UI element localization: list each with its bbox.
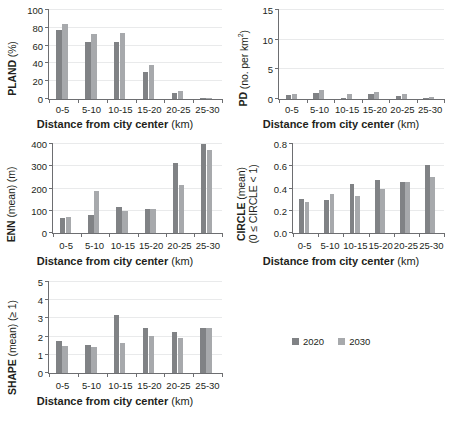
bar-2030-10-15[interactable]: [347, 94, 352, 99]
y-axis-tick-label: 1: [38, 349, 43, 360]
bar-2030-0-5[interactable]: [292, 94, 297, 99]
bar-group: [138, 144, 166, 233]
bar-2020-5-10[interactable]: [88, 215, 93, 233]
y-axis-tick-label: 200: [31, 183, 47, 194]
legend-item-2030[interactable]: 2030: [338, 336, 370, 347]
bar-2020-5-10[interactable]: [85, 42, 90, 99]
bar-group: [193, 282, 222, 373]
x-axis-tick-label: 10-15: [111, 240, 135, 251]
bar-group: [164, 10, 193, 99]
bar-2030-10-15[interactable]: [355, 196, 360, 233]
bar-2030-15-20[interactable]: [374, 92, 379, 99]
bar-2030-0-5[interactable]: [62, 346, 67, 373]
x-axis-tick-label: 10-15: [335, 104, 359, 115]
bar-group: [107, 282, 136, 373]
bar-2030-10-15[interactable]: [120, 33, 125, 99]
x-axis-tick-label: 20-25: [394, 240, 418, 251]
bar-2020-10-15[interactable]: [350, 184, 355, 233]
x-axis-tick-label: 5-10: [82, 380, 101, 391]
bar-2020-20-25[interactable]: [172, 332, 177, 373]
bar-2030-0-5[interactable]: [66, 217, 71, 233]
bar-2030-20-25[interactable]: [178, 338, 183, 373]
bar-2030-15-20[interactable]: [150, 209, 155, 233]
bar-group: [81, 144, 109, 233]
x-axis-tick-label: 15-20: [137, 380, 161, 391]
bar-group: [107, 10, 136, 99]
bar-group: [369, 144, 394, 233]
bar-2020-5-10[interactable]: [324, 200, 329, 233]
bar-2020-0-5[interactable]: [56, 341, 61, 373]
y-axis-tick-label: 300: [31, 161, 47, 172]
bar-2020-20-25[interactable]: [400, 182, 405, 233]
bar-group: [136, 282, 165, 373]
x-axis-tick: [444, 233, 445, 237]
y-axis-tick-label: 0: [42, 228, 47, 239]
bar-2030-15-20[interactable]: [149, 65, 154, 99]
bar-2020-15-20[interactable]: [375, 180, 380, 233]
bar-2020-15-20[interactable]: [368, 94, 373, 99]
bar-2030-25-30[interactable]: [206, 328, 211, 373]
x-axis-tick-label: 20-25: [166, 380, 190, 391]
bar-2020-15-20[interactable]: [143, 72, 148, 99]
bar-2020-10-15[interactable]: [341, 98, 346, 99]
bar-2020-25-30[interactable]: [200, 328, 205, 374]
bar-2020-20-25[interactable]: [173, 163, 178, 233]
bar-2020-0-5[interactable]: [56, 30, 61, 99]
x-axis-tick-label: 25-30: [195, 104, 219, 115]
y-axis-title-enn-unit: (mean) (m): [6, 166, 18, 217]
y-axis-title-pland: PLAND (%): [2, 4, 22, 132]
bar-2020-0-5[interactable]: [299, 199, 304, 233]
x-axis-tick: [193, 99, 194, 103]
bar-2020-25-30[interactable]: [201, 144, 206, 233]
bar-2030-10-15[interactable]: [122, 211, 127, 233]
bar-2020-5-10[interactable]: [313, 93, 318, 99]
bar-2030-5-10[interactable]: [319, 90, 324, 99]
x-axis-tick: [194, 233, 195, 237]
bar-2020-10-15[interactable]: [114, 42, 119, 99]
bar-2020-15-20[interactable]: [145, 209, 150, 233]
bar-2020-5-10[interactable]: [85, 345, 90, 373]
x-axis-tick-label: 15-20: [363, 104, 387, 115]
x-axis-title-pland-main: Distance from city center: [37, 118, 168, 130]
x-axis-tick: [78, 373, 79, 377]
bar-2030-5-10[interactable]: [91, 347, 96, 373]
bar-2020-25-30[interactable]: [425, 165, 430, 233]
bar-2030-25-30[interactable]: [429, 97, 434, 99]
bar-2020-25-30[interactable]: [200, 98, 205, 99]
bar-group: [362, 10, 390, 99]
bar-2030-5-10[interactable]: [91, 34, 96, 99]
x-axis-tick: [417, 99, 418, 103]
bar-2030-20-25[interactable]: [179, 185, 184, 233]
bar-2020-20-25[interactable]: [396, 96, 401, 99]
bar-2030-10-15[interactable]: [120, 343, 125, 373]
x-axis-tick: [307, 99, 308, 103]
bar-2020-25-30[interactable]: [423, 98, 428, 99]
bar-2020-15-20[interactable]: [143, 328, 148, 374]
x-axis-tick: [222, 99, 223, 103]
bar-2020-20-25[interactable]: [172, 93, 177, 99]
bar-2030-25-30[interactable]: [430, 177, 435, 233]
y-axis-tick-label: 0.4: [274, 183, 287, 194]
bar-2030-0-5[interactable]: [62, 24, 67, 99]
bar-2030-25-30[interactable]: [206, 98, 211, 99]
bar-2030-20-25[interactable]: [405, 182, 410, 233]
y-axis-tick-label: 5: [268, 64, 273, 75]
bar-2030-0-5[interactable]: [305, 202, 310, 233]
y-axis-title-pd: PD (no. per km2): [232, 4, 252, 132]
bar-2020-10-15[interactable]: [114, 315, 119, 373]
legend-item-2020[interactable]: 2020: [292, 336, 324, 347]
x-axis-tick: [53, 233, 54, 237]
bar-2020-10-15[interactable]: [116, 207, 121, 233]
bar-2030-20-25[interactable]: [402, 94, 407, 99]
x-axis-tick-label: 10-15: [108, 104, 132, 115]
x-axis-tick-label: 20-25: [390, 104, 414, 115]
bar-2030-20-25[interactable]: [178, 91, 183, 99]
bar-2030-5-10[interactable]: [330, 194, 335, 233]
bar-2020-0-5[interactable]: [60, 218, 65, 233]
bar-2030-25-30[interactable]: [207, 150, 212, 233]
bar-2030-5-10[interactable]: [94, 191, 99, 233]
x-axis-title-pd-unit: (km): [397, 118, 419, 130]
bar-2020-0-5[interactable]: [286, 95, 291, 99]
bar-2030-15-20[interactable]: [380, 189, 385, 233]
bar-2030-15-20[interactable]: [149, 336, 154, 373]
